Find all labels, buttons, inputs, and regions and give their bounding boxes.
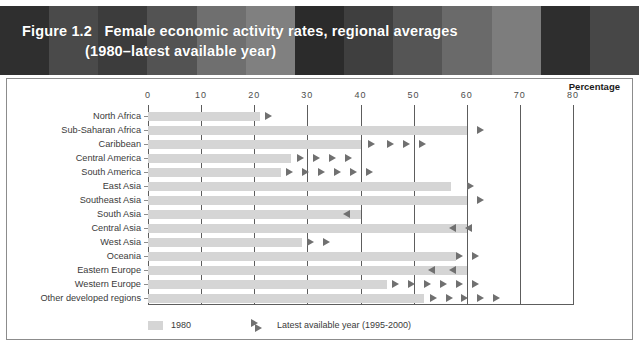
chart-row: West Asia [148,236,573,250]
figure-title-line-1: Figure 1.2 Female economic activity rate… [22,21,639,41]
marker-latest-year-right [297,154,304,162]
x-tick-label-60: 60 [461,90,473,100]
chart-row: Oceania [148,250,573,264]
chart-row: South America [148,166,573,180]
marker-latest-year-right [307,238,314,246]
x-tick-10 [201,105,202,109]
marker-latest-year-right [477,196,484,204]
x-tick-label-10: 10 [195,90,207,100]
chart-row: Central America [148,152,573,166]
marker-latest-year-right [477,126,484,134]
chart-legend: 1980 Latest available year (1995-2000) [148,318,411,332]
marker-latest-year-right [456,280,463,288]
marker-latest-year-right [477,294,484,302]
bar-1980 [148,238,302,247]
bar-1980 [148,210,361,219]
category-label-southeast-asia: Southeast Asia [80,195,141,206]
category-label-south-america: South America [81,167,141,178]
x-tick-50 [414,105,415,109]
legend-label-latest: Latest available year (1995-2000) [277,320,411,330]
marker-latest-year-right [368,140,375,148]
bar-1980 [148,252,456,261]
marker-latest-year-right [387,140,394,148]
bar-1980 [148,196,467,205]
category-label-west-asia: West Asia [100,237,141,248]
legend-label-1980: 1980 [171,320,191,330]
x-tick-60 [467,105,468,109]
category-label-eastern-europe: Eastern Europe [77,265,141,276]
bar-1980 [148,266,467,275]
figure-container: Figure 1.2 Female economic activity rate… [0,0,639,347]
figure-title-block: Figure 1.2 Female economic activity rate… [0,6,639,75]
marker-latest-year-right [366,168,373,176]
marker-latest-year-right [265,112,272,120]
x-tick-label-20: 20 [248,90,260,100]
marker-latest-year-right [472,280,479,288]
marker-latest-year-left [449,266,456,274]
marker-latest-year-right [424,280,431,288]
category-label-western-europe: Western Europe [75,279,141,290]
chart-panel: Percentage 01020304050607080North Africa… [6,78,633,340]
x-tick-label-80: 80 [567,90,579,100]
x-tick-label-70: 70 [514,90,526,100]
marker-latest-year-right [318,168,325,176]
marker-latest-year-right [456,252,463,260]
category-label-sub-saharan-africa: Sub-Saharan Africa [61,125,141,136]
category-label-central-america: Central America [76,153,141,164]
marker-latest-year-right [334,168,341,176]
category-label-central-asia: Central Asia [91,223,141,234]
chart-row: East Asia [148,180,573,194]
legend-swatch-1980 [148,321,163,330]
chart-row: Caribbean [148,138,573,152]
category-label-north-africa: North Africa [93,111,141,122]
chart-row: Western Europe [148,278,573,292]
category-label-south-asia: South Asia [97,209,141,220]
marker-latest-year-right [302,168,309,176]
bar-1980 [148,294,424,303]
bar-1980 [148,224,467,233]
chart-row: Southeast Asia [148,194,573,208]
marker-latest-year-right [345,154,352,162]
x-tick-label-50: 50 [408,90,420,100]
marker-latest-year-right [440,280,447,288]
marker-latest-year-right [461,294,468,302]
marker-latest-year-right [286,168,293,176]
bar-1980 [148,140,361,149]
x-tick-label-30: 30 [301,90,313,100]
marker-latest-year-right [472,252,479,260]
chart-row: North Africa [148,110,573,124]
marker-latest-year-right [493,294,500,302]
figure-header-band: Figure 1.2 Female economic activity rate… [0,6,639,75]
marker-latest-year-right [430,294,437,302]
chart-row: South Asia [148,208,573,222]
marker-latest-year-right [408,280,415,288]
gridline-80 [573,109,574,305]
marker-latest-year-right [446,294,453,302]
legend-arrow-icon [251,319,269,331]
marker-latest-year-left [449,224,456,232]
chart-row: Sub-Saharan Africa [148,124,573,138]
chart-row: Central Asia [148,222,573,236]
marker-latest-year-left [465,224,472,232]
x-tick-70 [520,105,521,109]
bar-1980 [148,112,260,121]
x-tick-40 [361,105,362,109]
marker-latest-year-right [323,238,330,246]
marker-latest-year-right [403,140,410,148]
bar-1980 [148,126,467,135]
x-tick-20 [254,105,255,109]
marker-latest-year-right [313,154,320,162]
marker-latest-year-right [419,140,426,148]
chart-row: Other developed regions [148,292,573,306]
category-label-caribbean: Caribbean [99,139,141,150]
bar-1980 [148,154,291,163]
category-label-oceania: Oceania [107,251,141,262]
figure-title-line-2: (1980–latest available year) [22,41,639,61]
marker-latest-year-right [350,168,357,176]
marker-latest-year-right [329,154,336,162]
bar-1980 [148,168,281,177]
x-tick-30 [307,105,308,109]
category-label-east-asia: East Asia [103,181,141,192]
bar-1980 [148,280,387,289]
chart-row: Eastern Europe [148,264,573,278]
